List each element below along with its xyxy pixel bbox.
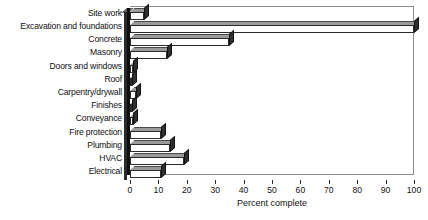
x-axis-tick xyxy=(130,180,131,184)
x-axis-tick xyxy=(215,180,216,184)
category-label: Conveyance xyxy=(0,114,122,123)
category-label: Doors and windows xyxy=(0,61,122,70)
category-label: Masonry xyxy=(0,48,122,57)
category-label: Plumbing xyxy=(0,140,122,149)
bar-front-face xyxy=(130,38,229,46)
x-axis-tick xyxy=(386,180,387,184)
x-axis-tick-label: 80 xyxy=(352,185,362,195)
bar xyxy=(130,61,133,69)
bar-top-face xyxy=(130,21,419,25)
bar xyxy=(130,113,133,121)
category-label: Excavation and foundations xyxy=(0,21,122,30)
vertical-axis-side-face xyxy=(127,8,130,175)
category-label: HVAC xyxy=(0,154,122,163)
x-axis-tick-label: 90 xyxy=(381,185,391,195)
bar-chart: Site workExcavation and foundationsConcr… xyxy=(0,0,428,220)
category-axis: Site workExcavation and foundationsConcr… xyxy=(0,6,125,178)
x-axis-tick-label: 70 xyxy=(324,185,334,195)
x-axis-tick xyxy=(357,180,358,184)
bar-front-face xyxy=(130,25,414,33)
bar-top-face xyxy=(130,47,172,51)
bar-end-cap xyxy=(414,17,419,33)
x-axis-tick xyxy=(329,180,330,184)
category-label: Electrical xyxy=(0,167,122,176)
bar xyxy=(130,87,136,95)
vertical-axis-front-face xyxy=(124,12,127,180)
bar-front-face xyxy=(130,131,161,139)
bar xyxy=(130,47,167,55)
x-axis-tick-label: 10 xyxy=(154,185,164,195)
x-axis-tick-label: 30 xyxy=(210,185,220,195)
x-axis-tick xyxy=(272,180,273,184)
category-label: Roof xyxy=(0,74,122,83)
x-axis-tick-label: 20 xyxy=(182,185,192,195)
bar-front-face xyxy=(130,170,161,178)
bar xyxy=(130,100,132,108)
bar-front-face xyxy=(130,144,170,152)
bar-front-face xyxy=(130,12,144,20)
bar xyxy=(130,74,132,82)
category-label: Fire protection xyxy=(0,127,122,136)
bar-top-face xyxy=(130,153,189,157)
bar xyxy=(130,166,161,174)
x-axis-tick xyxy=(244,180,245,184)
bar-front-face xyxy=(130,157,184,165)
x-axis-tick xyxy=(414,180,415,184)
x-axis-tick xyxy=(158,180,159,184)
bar xyxy=(130,153,184,161)
bar xyxy=(130,140,170,148)
x-axis-tick-label: 60 xyxy=(296,185,306,195)
category-label: Carpentry/drywall xyxy=(0,88,122,97)
x-axis-tick-label: 100 xyxy=(407,185,421,195)
x-axis-tick-label: 50 xyxy=(267,185,277,195)
bar xyxy=(130,127,161,135)
bar-top-face xyxy=(130,34,234,38)
bar xyxy=(130,34,229,42)
x-axis-tick xyxy=(300,180,301,184)
x-axis-title: Percent complete xyxy=(130,198,414,208)
category-label: Concrete xyxy=(0,35,122,44)
bar-top-face xyxy=(130,140,175,144)
x-axis-tick xyxy=(187,180,188,184)
category-label: Site work xyxy=(0,8,122,17)
category-label: Finishes xyxy=(0,101,122,110)
x-axis-tick-label: 0 xyxy=(128,185,133,195)
bar xyxy=(130,21,414,29)
x-axis-tick-label: 40 xyxy=(239,185,249,195)
